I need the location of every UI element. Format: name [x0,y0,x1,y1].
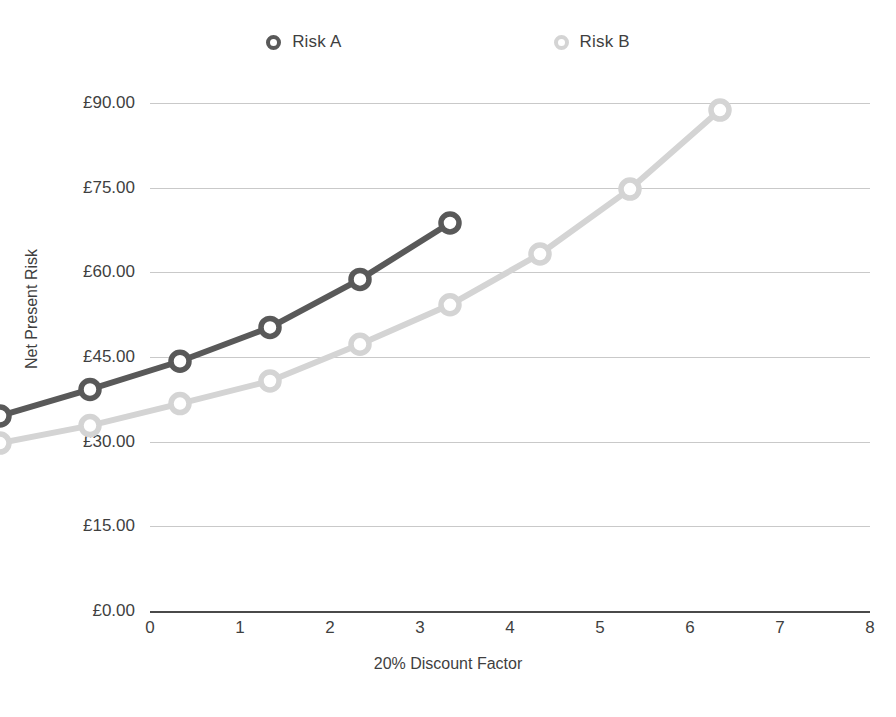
data-point-marker[interactable] [81,417,99,435]
data-point-marker[interactable] [171,352,189,370]
data-point-marker[interactable] [441,296,459,314]
series-layer [0,0,746,614]
x-axis-tick-label: 3 [415,618,424,638]
x-axis-ticks: 012345678 [150,618,870,644]
x-axis-tick-label: 8 [865,618,874,638]
x-axis-tick-label: 2 [325,618,334,638]
x-axis-tick-label: 4 [505,618,514,638]
data-point-marker[interactable] [0,407,9,425]
x-axis-tick-label: 0 [145,618,154,638]
data-point-marker[interactable] [621,180,639,198]
data-point-marker[interactable] [351,270,369,288]
x-axis-tick-label: 5 [595,618,604,638]
data-point-marker[interactable] [261,318,279,336]
x-axis-tick-label: 1 [235,618,244,638]
data-point-marker[interactable] [711,101,729,119]
data-point-marker[interactable] [531,245,549,263]
x-axis-tick-label: 6 [685,618,694,638]
x-axis-title: 20% Discount Factor [0,655,896,673]
data-point-marker[interactable] [171,395,189,413]
data-point-marker[interactable] [351,335,369,353]
series-line [0,223,450,416]
line-chart: Risk A Risk B £0.00£15.00£30.00£45.00£60… [0,0,896,717]
data-point-marker[interactable] [441,214,459,232]
x-axis-tick-label: 7 [775,618,784,638]
data-point-marker[interactable] [81,380,99,398]
data-point-marker[interactable] [261,372,279,390]
data-point-marker[interactable] [0,434,9,452]
